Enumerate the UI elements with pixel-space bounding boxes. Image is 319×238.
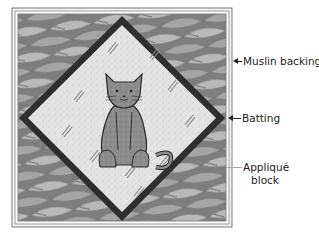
applique-block-label-line2: block xyxy=(243,174,287,186)
muslin-leader-line xyxy=(236,61,242,62)
muslin-backing-label: Muslin backing xyxy=(243,55,319,67)
applique-block-label-line1: Appliqué xyxy=(243,161,287,173)
batting-leader-line xyxy=(232,118,241,119)
applique-leader-line xyxy=(226,167,242,168)
diagram: Muslin backing Batting Appliqué block xyxy=(0,0,319,238)
batting-label: Batting xyxy=(242,112,280,124)
